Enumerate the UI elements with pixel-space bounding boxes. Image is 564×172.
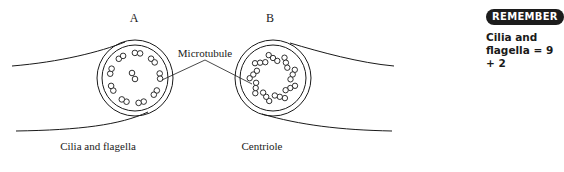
microtubule [283,88,288,93]
microtubule [275,58,280,63]
label-a: A [130,11,139,25]
microtubule [257,60,262,65]
microtubule [272,93,277,98]
microtubule [120,53,126,59]
microtubule [152,60,158,66]
microtubule [119,97,125,103]
microtubule [263,60,268,65]
cilia-cross-section [12,40,173,131]
microtubule [136,100,142,106]
flagellum-outline-bottom [16,112,148,131]
outer-membrane [235,40,311,116]
microtubule [253,91,258,96]
label-b: B [266,11,274,25]
microtubule-triplets-ring-b [247,52,298,103]
microtubule [253,80,258,85]
microtubule [277,94,282,99]
microtubule [137,51,143,57]
microtubule [288,77,293,82]
microtubule [108,83,114,89]
diagram: A B Microtubule Cilia and flagella Centr… [0,0,564,172]
microtubule [157,76,163,82]
microtubule [151,92,157,98]
remember-badge: REMEMBER [486,9,564,25]
remember-note: Cilia and flagella = 9 + 2 [486,31,564,70]
microtubule [285,65,290,70]
centriole-outline-top [290,43,394,66]
microtubule [252,61,257,66]
pointer-line-b [205,60,252,84]
microtubule [157,71,163,77]
flagellum-outline-top [12,42,125,66]
microtubule [260,90,265,95]
caption-cilia-and-flagella: Cilia and flagella [60,140,136,152]
note-line-2: flagella = 9 + 2 [486,44,564,70]
note-line-1: Cilia and [486,31,564,44]
microtubule [253,85,258,90]
central-microtubule [129,70,135,76]
central-microtubule [132,76,138,82]
microtubule [132,50,138,56]
microtubule-label: Microtubule [178,47,232,59]
pointer-line-a [162,60,205,80]
microtubule-doublets-ring-a [107,50,163,106]
caption-centriole: Centriole [242,140,283,152]
microtubule [109,66,115,72]
centriole-outline-bottom [262,114,392,131]
microtubule [254,68,259,73]
centriole-cross-section [235,40,394,131]
microtubule [282,95,287,100]
microtubule-pointer-lines [162,60,252,84]
